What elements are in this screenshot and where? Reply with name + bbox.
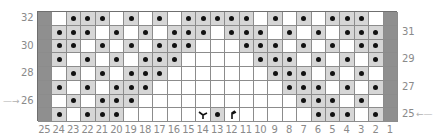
knit-stitch-cell: [182, 108, 196, 122]
column-label-4: 4: [339, 124, 353, 135]
purl-dot-icon: [258, 57, 263, 62]
chart-row-25: [38, 108, 396, 122]
purl-stitch-cell: [52, 40, 66, 54]
purl-dot-icon: [172, 43, 177, 48]
purl-dot-icon: [71, 16, 76, 21]
purl-dot-icon: [129, 71, 134, 76]
knit-stitch-cell: [52, 67, 66, 81]
knit-stitch-cell: [326, 26, 340, 40]
edge-stitch-cell: [384, 26, 398, 40]
purl-stitch-cell: [124, 81, 138, 95]
purl-dot-icon: [258, 43, 263, 48]
purl-stitch-cell: [254, 40, 268, 54]
purl-stitch-cell: [369, 81, 383, 95]
edge-stitch-cell: [384, 67, 398, 81]
purl-stitch-cell: [96, 95, 110, 109]
purl-stitch-cell: [52, 108, 66, 122]
purl-dot-icon: [85, 57, 90, 62]
purl-dot-icon: [287, 57, 292, 62]
knit-stitch-cell: [96, 26, 110, 40]
purl-dot-icon: [143, 85, 148, 90]
purl-dot-icon: [85, 85, 90, 90]
knit-stitch-cell: [211, 81, 225, 95]
purl-stitch-cell: [110, 53, 124, 67]
chart-row-30: [38, 40, 396, 54]
purl-stitch-cell: [297, 67, 311, 81]
knit-stitch-cell: [196, 53, 210, 67]
column-label-23: 23: [66, 124, 80, 135]
purl-stitch-cell: [355, 26, 369, 40]
left-decrease-cell: [196, 108, 210, 122]
knit-stitch-cell: [110, 40, 124, 54]
purl-stitch-cell: [96, 108, 110, 122]
purl-stitch-cell: [139, 81, 153, 95]
purl-stitch-cell: [268, 67, 282, 81]
column-label-11: 11: [239, 124, 253, 135]
column-label-22: 22: [80, 124, 94, 135]
purl-stitch-cell: [110, 26, 124, 40]
knit-stitch-cell: [168, 12, 182, 26]
edge-stitch-cell: [38, 40, 52, 54]
purl-stitch-cell: [196, 12, 210, 26]
purl-stitch-cell: [153, 12, 167, 26]
purl-stitch-cell: [67, 67, 81, 81]
stitch-chart-grid: [37, 11, 397, 121]
knit-stitch-cell: [355, 81, 369, 95]
row-label-right-25: 25: [402, 108, 414, 119]
edge-stitch-cell: [384, 40, 398, 54]
purl-dot-icon: [330, 112, 335, 117]
purl-stitch-cell: [283, 81, 297, 95]
purl-stitch-cell: [355, 40, 369, 54]
purl-stitch-cell: [182, 26, 196, 40]
column-label-25: 25: [37, 124, 51, 135]
knit-stitch-cell: [268, 26, 282, 40]
purl-dot-icon: [100, 98, 105, 103]
purl-dot-icon: [287, 85, 292, 90]
purl-dot-icon: [330, 16, 335, 21]
knit-stitch-cell: [283, 95, 297, 109]
purl-stitch-cell: [297, 12, 311, 26]
purl-stitch-cell: [124, 40, 138, 54]
knit-stitch-cell: [283, 12, 297, 26]
purl-dot-icon: [186, 30, 191, 35]
purl-stitch-cell: [67, 12, 81, 26]
edge-stitch-cell: [38, 81, 52, 95]
row-label-left-32: 32: [21, 12, 33, 23]
chart-row-26: [38, 95, 396, 109]
purl-dot-icon: [273, 57, 278, 62]
purl-dot-icon: [57, 43, 62, 48]
purl-dot-icon: [373, 43, 378, 48]
purl-dot-icon: [114, 85, 119, 90]
work-direction-arrow-right-icon: —→: [3, 96, 20, 106]
purl-dot-icon: [330, 71, 335, 76]
purl-dot-icon: [215, 112, 220, 117]
purl-stitch-cell: [153, 40, 167, 54]
purl-dot-icon: [143, 71, 148, 76]
purl-stitch-cell: [139, 26, 153, 40]
knit-stitch-cell: [254, 81, 268, 95]
purl-stitch-cell: [340, 26, 354, 40]
purl-dot-icon: [143, 57, 148, 62]
knit-stitch-cell: [268, 95, 282, 109]
purl-stitch-cell: [225, 12, 239, 26]
knit-stitch-cell: [297, 53, 311, 67]
purl-dot-icon: [114, 57, 119, 62]
knit-stitch-cell: [182, 95, 196, 109]
knit-stitch-cell: [67, 53, 81, 67]
purl-stitch-cell: [283, 53, 297, 67]
purl-stitch-cell: [326, 40, 340, 54]
knit-stitch-cell: [340, 40, 354, 54]
column-label-5: 5: [325, 124, 339, 135]
knit-stitch-cell: [182, 67, 196, 81]
row-label-left-28: 28: [21, 67, 33, 78]
purl-dot-icon: [129, 85, 134, 90]
purl-stitch-cell: [153, 53, 167, 67]
purl-dot-icon: [215, 16, 220, 21]
knit-stitch-cell: [153, 81, 167, 95]
knit-stitch-cell: [67, 108, 81, 122]
purl-stitch-cell: [254, 53, 268, 67]
knit-stitch-cell: [254, 95, 268, 109]
purl-dot-icon: [85, 112, 90, 117]
knit-stitch-cell: [254, 67, 268, 81]
purl-stitch-cell: [52, 26, 66, 40]
